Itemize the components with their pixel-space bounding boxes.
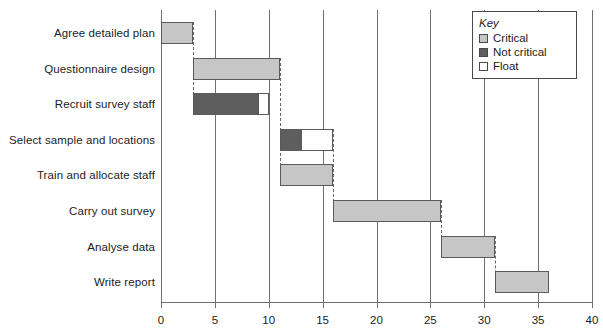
task-label: Recruit survey staff [0, 98, 155, 111]
legend-entry-label: Not critical [493, 45, 547, 59]
dependency-link [269, 93, 270, 151]
task-label: Carry out survey [0, 205, 155, 218]
x-axis-tick [592, 302, 593, 308]
x-axis-tick [215, 302, 216, 308]
legend-entry: Not critical [479, 45, 570, 59]
gridline [592, 10, 593, 302]
x-axis-tick [484, 302, 485, 308]
x-axis-tick-label: 40 [586, 314, 599, 327]
task-label: Agree detailed plan [0, 27, 155, 40]
x-axis-tick [430, 302, 431, 308]
legend-entry: Float [479, 59, 570, 73]
legend-swatch-critical [479, 34, 488, 43]
legend-entries: CriticalNot criticalFloat [479, 31, 570, 73]
task-bar [193, 93, 258, 115]
x-axis-tick [323, 302, 324, 308]
task-bar [280, 129, 302, 151]
gridline [215, 10, 216, 302]
x-axis-tick-label: 0 [158, 314, 164, 327]
x-axis-tick-label: 10 [262, 314, 275, 327]
task-bar [441, 236, 495, 258]
task-bar [495, 271, 549, 293]
task-label: Select sample and locations [0, 133, 155, 146]
legend-entry: Critical [479, 31, 570, 45]
task-bar [333, 200, 441, 222]
gridline [323, 10, 324, 302]
gridline [377, 10, 378, 302]
task-label: Analyse data [0, 240, 155, 253]
legend-swatch-float [479, 62, 488, 71]
legend-swatch-notcritical [479, 48, 488, 57]
x-axis-tick-label: 25 [424, 314, 437, 327]
gantt-chart: Agree detailed planQuestionnaire designR… [0, 0, 603, 332]
x-axis-tick-label: 30 [478, 314, 491, 327]
x-axis-tick [538, 302, 539, 308]
gridline [161, 10, 162, 302]
float-bar [258, 93, 269, 115]
float-bar [301, 129, 333, 151]
gridline [269, 10, 270, 302]
task-bar [193, 58, 279, 80]
legend-entry-label: Critical [493, 31, 528, 45]
x-axis-tick-label: 35 [532, 314, 545, 327]
legend-box: Key CriticalNot criticalFloat [472, 11, 577, 79]
legend-entry-label: Float [493, 59, 519, 73]
task-bar [161, 22, 193, 44]
task-label-column: Agree detailed planQuestionnaire designR… [0, 0, 155, 332]
task-label: Train and allocate staff [0, 169, 155, 182]
x-axis-tick-label: 5 [212, 314, 218, 327]
x-axis-tick [161, 302, 162, 308]
gridline [430, 10, 431, 302]
x-axis-tick [377, 302, 378, 308]
task-label: Write report [0, 276, 155, 289]
task-label: Questionnaire design [0, 62, 155, 75]
x-axis-tick-label: 15 [316, 314, 329, 327]
legend-title: Key [479, 16, 570, 30]
x-axis-tick-label: 20 [370, 314, 383, 327]
task-bar [280, 164, 334, 186]
x-axis-tick [269, 302, 270, 308]
